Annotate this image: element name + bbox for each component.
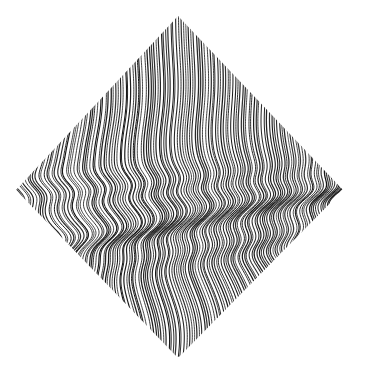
artwork-canvas: A rotated square (diamond) densely fille… xyxy=(0,0,365,374)
diamond-wave-lines-svg: A rotated square (diamond) densely fille… xyxy=(0,0,365,374)
